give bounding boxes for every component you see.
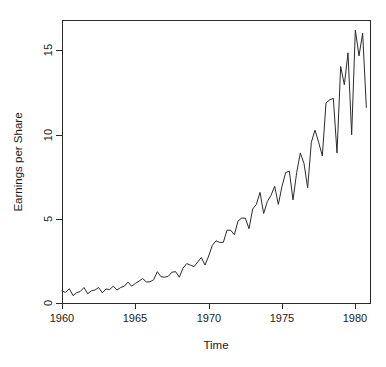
x-tick-label: 1965 xyxy=(123,312,147,324)
y-tick-label: 0 xyxy=(42,300,54,306)
y-tick-label: 10 xyxy=(42,129,54,141)
x-tick-label: 1975 xyxy=(270,312,294,324)
x-tick-label: 1980 xyxy=(343,312,367,324)
x-tick-label: 1970 xyxy=(197,312,221,324)
chart-container: 051015 19601965197019751980 Time Earning… xyxy=(0,0,386,367)
x-tick-label: 1960 xyxy=(50,312,74,324)
y-axis-title: Earnings per Share xyxy=(12,112,24,211)
x-axis-title: Time xyxy=(203,339,228,351)
y-tick-label: 5 xyxy=(42,216,54,222)
time-series-plot: 051015 19601965197019751980 Time Earning… xyxy=(0,0,386,367)
y-tick-label: 15 xyxy=(42,44,54,56)
